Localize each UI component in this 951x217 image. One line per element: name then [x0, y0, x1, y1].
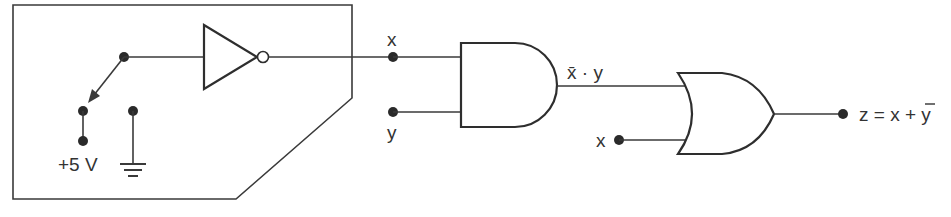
switch-arrow-icon	[88, 89, 100, 103]
y-label: y	[387, 122, 397, 143]
x-label-or-input: x	[596, 130, 606, 151]
not-gate	[204, 25, 269, 89]
or-output-label: z = x + y	[859, 104, 931, 125]
z-equation: z = x +	[859, 104, 921, 125]
inversion-bubble-icon	[258, 52, 269, 63]
switch-lever	[94, 57, 124, 95]
z-terminal	[838, 109, 848, 119]
y-bar: y	[921, 104, 931, 125]
or-gate	[678, 73, 774, 154]
and-gate	[461, 43, 557, 127]
x-label: x	[387, 29, 397, 50]
supply-voltage-label: +5 V	[58, 154, 98, 175]
ground-icon	[120, 111, 146, 176]
logic-circuit-diagram: +5 V x y x̄ · y x z = x + y	[0, 0, 951, 217]
and-output-label: x̄ · y	[567, 62, 603, 83]
supply-terminal	[78, 136, 88, 146]
